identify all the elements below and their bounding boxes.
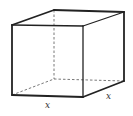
edge-top-back (54, 10, 124, 12)
box-diagram: x x (0, 0, 133, 116)
edge-top-left-depth (12, 10, 54, 25)
label-depth: x (106, 91, 111, 101)
label-front-width: x (45, 100, 50, 110)
hidden-edge-back-bottom (54, 79, 124, 81)
hidden-edge-left-bottom-depth (12, 79, 54, 95)
edge-top-right-depth (83, 12, 124, 26)
edge-bottom-right-depth (83, 81, 124, 97)
edge-front-bottom (12, 95, 83, 97)
edge-top-front (12, 25, 83, 26)
